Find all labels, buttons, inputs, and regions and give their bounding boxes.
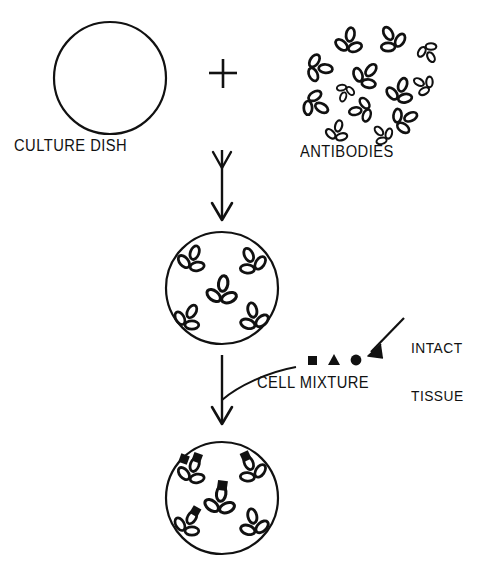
antibody-molecule-1 (372, 20, 411, 57)
antibody-cluster (298, 20, 444, 149)
figure-canvas: CULTURE DISH ANTIBODIES CELL MIXTURE INT… (0, 0, 494, 571)
antibody-molecule-8 (347, 95, 374, 125)
antibody-molecule-3 (306, 52, 334, 84)
label-culture-dish: CULTURE DISH (14, 137, 127, 155)
cell-symbol-square (308, 356, 317, 365)
bound-antibody-0 (173, 448, 213, 488)
culture-dish-with-bound-cells (166, 442, 278, 554)
antibody-molecule-6 (382, 73, 419, 107)
label-antibodies: ANTIBODIES (300, 143, 394, 161)
dish-antibody-0 (174, 241, 212, 276)
arrow-dish-to-cells (212, 355, 232, 424)
antibody-molecule-12 (332, 81, 357, 105)
dish-antibody-3 (169, 298, 208, 335)
antibody-molecule-4 (347, 55, 386, 94)
dish-antibody-1 (232, 242, 271, 279)
cell-symbol-circle (351, 355, 362, 366)
bound-cell-square (217, 480, 228, 491)
cell-symbol-triangle (328, 354, 340, 365)
dish-antibody-4 (235, 300, 272, 333)
antibody-molecule-9 (388, 101, 423, 138)
antibody-molecule-0 (332, 25, 366, 55)
culture-dish-empty (54, 22, 166, 134)
leader-line-intact-tissue (368, 318, 404, 358)
bound-antibody-2 (202, 478, 240, 517)
bound-antibody-4 (235, 506, 272, 539)
label-intact-tissue: INTACT TISSUE (411, 308, 464, 436)
label-cell-mixture: CELL MIXTURE (257, 374, 369, 392)
bound-cell-square (178, 453, 190, 465)
antibody-molecule-7 (298, 85, 335, 124)
dish-antibody-2 (204, 274, 241, 307)
bound-antibody-1 (230, 446, 271, 487)
antibody-molecule-2 (414, 39, 444, 68)
arrow-combine-to-dish (212, 150, 232, 220)
plus-sign (209, 59, 237, 88)
culture-dish-with-antibodies (166, 232, 278, 344)
schematic-diagram (0, 0, 494, 571)
label-intact-tissue-line1: INTACT (411, 340, 464, 356)
cell-mixture-symbols (308, 354, 361, 365)
antibody-molecule-5 (409, 69, 438, 99)
label-intact-tissue-line2: TISSUE (411, 388, 464, 404)
antibody-molecule-10 (323, 117, 352, 144)
